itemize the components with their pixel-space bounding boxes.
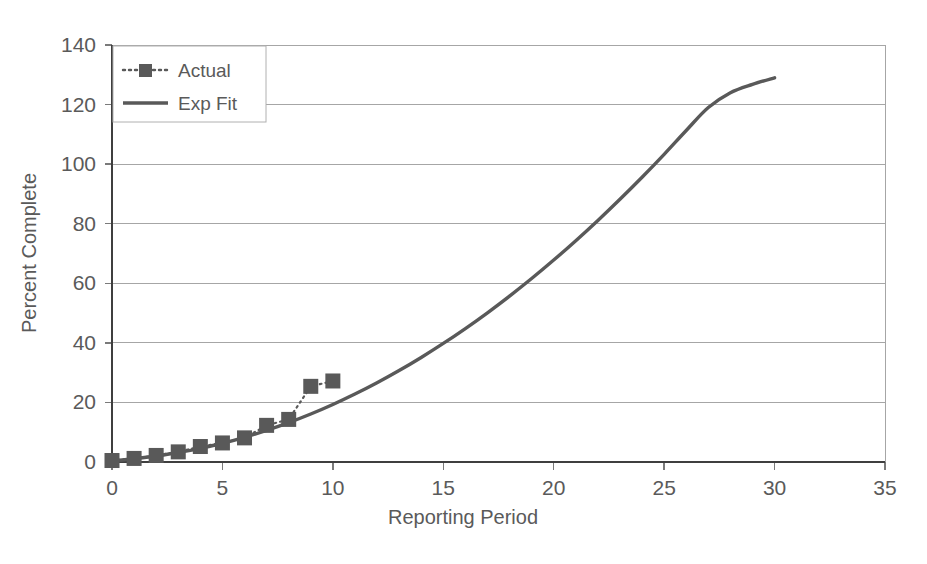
- data-point-marker: [237, 430, 252, 445]
- x-tick-label: 30: [763, 476, 786, 499]
- chart-canvas: 020406080100120140 05101520253035 Report…: [0, 0, 927, 564]
- data-point-marker: [105, 453, 120, 468]
- y-tick-label: 80: [73, 212, 96, 235]
- x-tick-label: 0: [106, 476, 118, 499]
- y-tick-label: 100: [61, 152, 96, 175]
- y-tick-label: 40: [73, 331, 96, 354]
- data-point-marker: [193, 439, 208, 454]
- x-tick-label: 10: [321, 476, 344, 499]
- data-point-marker: [149, 448, 164, 463]
- data-point-marker: [171, 444, 186, 459]
- legend-exp-fit-label: Exp Fit: [178, 93, 238, 114]
- x-tick-label: 20: [542, 476, 565, 499]
- x-tick-label: 15: [432, 476, 455, 499]
- y-tick-label: 0: [84, 450, 96, 473]
- x-tick-label: 5: [217, 476, 229, 499]
- data-point-marker: [215, 435, 230, 450]
- y-tick-label: 60: [73, 271, 96, 294]
- data-point-marker: [281, 412, 296, 427]
- legend: Actual Exp Fit: [113, 46, 266, 122]
- data-point-marker: [259, 418, 274, 433]
- legend-actual-square-icon: [139, 64, 152, 77]
- chart-container: 020406080100120140 05101520253035 Report…: [0, 0, 927, 564]
- data-point-marker: [303, 379, 318, 394]
- y-tick-label: 140: [61, 33, 96, 56]
- y-tick-label: 20: [73, 390, 96, 413]
- y-tick-label: 120: [61, 93, 96, 116]
- y-axis-title: Percent Complete: [18, 173, 40, 333]
- x-tick-label: 35: [873, 476, 896, 499]
- x-axis-title: Reporting Period: [388, 506, 538, 528]
- legend-actual-label: Actual: [178, 60, 231, 81]
- data-point-marker: [325, 373, 340, 388]
- data-point-marker: [127, 451, 142, 466]
- x-tick-label: 25: [652, 476, 675, 499]
